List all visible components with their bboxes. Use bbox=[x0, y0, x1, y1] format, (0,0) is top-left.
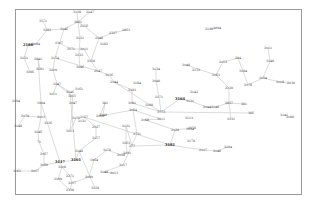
node-label: 2063 bbox=[212, 73, 220, 77]
node-label: 3084 bbox=[32, 42, 40, 46]
node-label: 3113 bbox=[185, 116, 193, 120]
node-label: 2013 bbox=[110, 171, 118, 175]
node-label: 3146 bbox=[60, 27, 68, 31]
node-label: 2088 bbox=[286, 115, 294, 119]
node-label: 3148 bbox=[14, 124, 22, 128]
node-label: 3034 bbox=[259, 76, 267, 80]
node-label: 3048 bbox=[182, 63, 190, 67]
node-label: 1994 bbox=[37, 101, 45, 105]
node-label: 2338 bbox=[66, 188, 74, 192]
node-label: 2148 bbox=[211, 105, 219, 109]
node-label: 384 bbox=[235, 56, 241, 60]
node-label: 3011 bbox=[80, 47, 88, 51]
node-label: 3134 bbox=[186, 127, 194, 131]
node-label: 381 bbox=[102, 101, 108, 105]
node-label: 3008 bbox=[276, 80, 284, 84]
node-label: 3182 bbox=[43, 28, 51, 32]
node-label: 3011 bbox=[49, 92, 57, 96]
node-label: 381 bbox=[241, 102, 247, 106]
node-label: 3731 bbox=[133, 132, 141, 136]
node-label: 3061 bbox=[13, 169, 21, 173]
node-label: 2131 bbox=[20, 56, 28, 60]
node-label: 1964 bbox=[90, 158, 98, 162]
node-label: 2184 bbox=[12, 99, 20, 103]
node-label: 3773 bbox=[157, 110, 165, 114]
node-label: 3131 bbox=[186, 99, 194, 103]
node-label: 2107 bbox=[199, 148, 207, 152]
node-label: 3178 bbox=[103, 148, 111, 152]
node-label: 3136 bbox=[105, 73, 113, 77]
network-diagram: 3138214735713821215631823146232719632131… bbox=[0, 0, 314, 207]
node-label: 2178 bbox=[187, 139, 195, 143]
node-label: 3064 bbox=[129, 108, 137, 112]
node-label: 3046 bbox=[76, 65, 84, 69]
node-label: 2174 bbox=[51, 56, 59, 60]
node-label: 3101 bbox=[71, 158, 82, 162]
node-label: 3147 bbox=[53, 82, 61, 86]
node-label: 2307 bbox=[55, 41, 63, 45]
node-label: 71 bbox=[37, 140, 41, 144]
node-label: 3165 bbox=[68, 94, 76, 98]
node-label: 2078 bbox=[244, 83, 252, 87]
node-label: 2271 bbox=[66, 174, 74, 178]
node-label: 3094 bbox=[213, 26, 221, 30]
node-label: 3183 bbox=[128, 88, 136, 92]
node-label: 3184 bbox=[224, 145, 232, 149]
node-label: 2131 bbox=[76, 36, 84, 40]
node-label: 2044 bbox=[203, 105, 211, 109]
node-label: 3108 bbox=[58, 165, 66, 169]
node-label: 2089 bbox=[85, 175, 93, 179]
node-label: 3081 bbox=[128, 101, 136, 105]
node-label: 2103 bbox=[37, 115, 45, 119]
node-label: 3571 bbox=[39, 19, 47, 23]
node-label: 2209 bbox=[49, 68, 57, 72]
node-label: 3126 bbox=[44, 121, 52, 125]
node-label: 2078 bbox=[21, 114, 29, 118]
node-label: 2067 bbox=[40, 152, 48, 156]
node-label: 3164 bbox=[175, 97, 186, 101]
node-label: 386 bbox=[248, 111, 254, 115]
node-label: 2133 bbox=[75, 53, 83, 57]
node-label: 2048 bbox=[213, 149, 221, 153]
node-label: 3117 bbox=[55, 160, 66, 164]
node-label: 3113 bbox=[66, 129, 74, 133]
node-label: 3069 bbox=[40, 163, 48, 167]
node-label: 3134 bbox=[152, 67, 160, 71]
node-label: 2027 bbox=[92, 125, 100, 129]
node-label: 2327 bbox=[109, 31, 117, 35]
node-label: 2139 bbox=[225, 86, 233, 90]
node-label: 3181 bbox=[165, 143, 176, 147]
node-label: 2047 bbox=[69, 101, 77, 105]
node-label: 2131 bbox=[227, 117, 235, 121]
node-label: 2148 bbox=[99, 113, 107, 117]
node-label: 3157 bbox=[68, 181, 76, 185]
node-label: 3186 bbox=[26, 70, 34, 74]
node-label: 2053 bbox=[219, 60, 227, 64]
node-label: 2841 bbox=[34, 57, 42, 61]
node-label: 2068 bbox=[141, 118, 149, 122]
node-label: 3146 bbox=[34, 130, 42, 134]
node-label: 3128 bbox=[91, 186, 99, 190]
node-label: 1963 bbox=[122, 28, 130, 32]
node-label: 2161 bbox=[75, 87, 83, 91]
node-label: 3184 bbox=[133, 81, 141, 85]
node-label: 3191 bbox=[123, 151, 131, 155]
node-label: 277 bbox=[129, 144, 135, 148]
node-label: 2148 bbox=[75, 149, 83, 153]
node-label: 2133 bbox=[192, 68, 200, 72]
node-label: 2131 bbox=[78, 119, 86, 123]
node-label: 3148 bbox=[266, 59, 274, 63]
node-label: 2147 bbox=[86, 10, 94, 14]
node-label: 3117 bbox=[119, 163, 127, 167]
node-label: 3184 bbox=[239, 69, 247, 73]
node-label: 2156 bbox=[80, 24, 88, 28]
node-label: 3157 bbox=[92, 136, 100, 140]
node-label: 2199 bbox=[54, 177, 62, 181]
node-label: 3181 bbox=[36, 67, 44, 71]
node-label: 2147 bbox=[94, 69, 102, 73]
node-label: 2143 bbox=[190, 90, 198, 94]
node-label: 3182 bbox=[100, 42, 108, 46]
node-label: 2028 bbox=[171, 128, 179, 132]
node-label: 3048 bbox=[152, 79, 160, 83]
node-label: 2007 bbox=[31, 169, 39, 173]
